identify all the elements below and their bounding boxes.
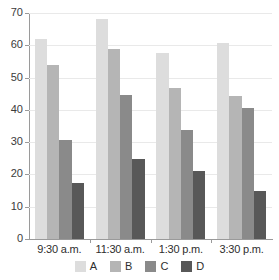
- bar-d-3: [193, 171, 205, 239]
- legend-label: C: [160, 261, 168, 272]
- y-tick-label: 0: [0, 232, 23, 244]
- bar-b-2: [108, 49, 120, 239]
- bar-d-4: [254, 191, 266, 239]
- legend-swatch-icon: [75, 261, 86, 272]
- legend-label: A: [90, 261, 97, 272]
- legend: ABCD: [0, 261, 279, 272]
- x-tick-label: 9:30 a.m.: [29, 243, 90, 255]
- bar-b-3: [169, 88, 181, 239]
- legend-item-b[interactable]: B: [110, 261, 132, 272]
- y-tick-mark: [25, 239, 29, 240]
- bar-c-1: [59, 140, 71, 239]
- y-tick-label: 30: [0, 135, 23, 147]
- legend-swatch-icon: [145, 261, 156, 272]
- bar-d-1: [72, 183, 84, 239]
- x-tick-label: 11:30 a.m.: [90, 243, 151, 255]
- legend-swatch-icon: [110, 261, 121, 272]
- bar-chart: 010203040506070 9:30 a.m.11:30 a.m.1:30 …: [0, 0, 279, 280]
- y-tick-label: 60: [0, 38, 23, 50]
- x-tick-label: 3:30 p.m.: [211, 243, 272, 255]
- legend-item-a[interactable]: A: [75, 261, 97, 272]
- y-tick-label: 50: [0, 71, 23, 83]
- bar-a-2: [96, 19, 108, 239]
- bar-d-2: [132, 159, 144, 239]
- y-tick-label: 20: [0, 167, 23, 179]
- legend-swatch-icon: [181, 261, 192, 272]
- legend-label: D: [196, 261, 204, 272]
- legend-item-c[interactable]: C: [145, 261, 168, 272]
- x-tick-label: 1:30 p.m.: [151, 243, 212, 255]
- bar-a-3: [156, 53, 168, 239]
- bar-c-4: [242, 108, 254, 239]
- bars-container: [29, 13, 272, 239]
- bar-c-3: [181, 130, 193, 239]
- y-tick-label: 70: [0, 6, 23, 18]
- y-tick-label: 10: [0, 200, 23, 212]
- bar-b-4: [229, 96, 241, 239]
- bar-b-1: [47, 65, 59, 239]
- legend-item-d[interactable]: D: [181, 261, 204, 272]
- y-tick-label: 40: [0, 103, 23, 115]
- bar-a-1: [35, 39, 47, 239]
- legend-label: B: [125, 261, 132, 272]
- bar-c-2: [120, 95, 132, 239]
- bar-a-4: [217, 43, 229, 239]
